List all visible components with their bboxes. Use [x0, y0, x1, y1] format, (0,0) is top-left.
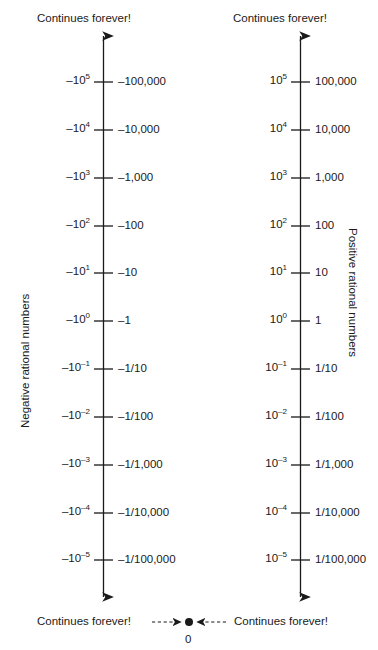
negative-power-exponent: –2: [81, 407, 90, 416]
negative-power-exponent: 4: [86, 120, 90, 129]
negative-power-exponent: 0: [86, 311, 90, 320]
negative-value-label: –10,000: [118, 124, 160, 136]
positive-power-label: 105: [222, 75, 287, 87]
negative-value-label: –10: [118, 267, 137, 279]
negative-power-label: –104: [20, 123, 90, 135]
negative-power-exponent: 3: [86, 168, 90, 177]
negative-power-label: –103: [20, 171, 90, 183]
positive-value-label: 10,000: [315, 124, 350, 136]
negative-power-label: –10–1: [20, 362, 90, 374]
positive-power-exponent: –4: [278, 503, 287, 512]
negative-power-label: –10–4: [20, 506, 90, 518]
positive-value-label: 1/100: [315, 411, 344, 423]
positive-power-exponent: 1: [283, 263, 287, 272]
negative-value-label: –1/10: [118, 363, 147, 375]
positive-power-exponent: 0: [283, 311, 287, 320]
top-label-positive: Continues forever!: [233, 13, 327, 25]
positive-power-exponent: –5: [278, 550, 287, 559]
negative-power-exponent: –5: [81, 550, 90, 559]
negative-power-exponent: –3: [81, 455, 90, 464]
negative-power-exponent: 1: [86, 263, 90, 272]
negative-power-label: –105: [20, 75, 90, 87]
positive-power-label: 103: [222, 171, 287, 183]
positive-power-label: 10–5: [222, 553, 287, 565]
positive-value-label: 100: [315, 220, 334, 232]
negative-value-label: –1: [118, 315, 131, 327]
negative-power-label: –10–5: [20, 553, 90, 565]
negative-value-label: –1/100: [118, 411, 153, 423]
positive-power-exponent: 5: [283, 72, 287, 81]
positive-power-label: 10–4: [222, 506, 287, 518]
positive-power-exponent: 4: [283, 120, 287, 129]
negative-power-label: –100: [20, 314, 90, 326]
negative-power-exponent: 5: [86, 72, 90, 81]
positive-power-label: 10–1: [222, 362, 287, 374]
positive-power-label: 100: [222, 314, 287, 326]
zero-point-dot: [185, 618, 193, 626]
positive-power-exponent: –3: [278, 455, 287, 464]
negative-value-label: –1,000: [118, 172, 153, 184]
positive-value-label: 1/100,000: [315, 554, 366, 566]
positive-power-exponent: 2: [283, 216, 287, 225]
positive-power-label: 101: [222, 266, 287, 278]
bottom-label-positive: Continues forever!: [234, 616, 328, 628]
positive-power-exponent: 3: [283, 168, 287, 177]
positive-value-label: 100,000: [315, 76, 357, 88]
number-line-diagram: Continues forever! Continues forever! Co…: [0, 0, 378, 650]
positive-power-label: 102: [222, 219, 287, 231]
axis-title-positive: Positive rational numbers: [347, 228, 359, 357]
negative-power-exponent: 2: [86, 216, 90, 225]
zero-label: 0: [185, 633, 191, 645]
positive-power-exponent: –1: [278, 359, 287, 368]
zero-convergence-group: [152, 618, 226, 626]
negative-power-label: –102: [20, 219, 90, 231]
top-label-negative: Continues forever!: [37, 13, 131, 25]
negative-value-label: –1/100,000: [118, 554, 176, 566]
negative-power-label: –10–3: [20, 458, 90, 470]
positive-value-label: 1,000: [315, 172, 344, 184]
positive-power-exponent: –2: [278, 407, 287, 416]
negative-power-label: –101: [20, 266, 90, 278]
positive-power-label: 10–2: [222, 410, 287, 422]
negative-value-label: –100: [118, 220, 144, 232]
negative-power-exponent: –4: [81, 503, 90, 512]
negative-axis-group: [94, 36, 113, 597]
negative-power-label: –10–2: [20, 410, 90, 422]
positive-power-label: 10–3: [222, 458, 287, 470]
negative-power-exponent: –1: [81, 359, 90, 368]
negative-value-label: –1/1,000: [118, 459, 163, 471]
positive-power-label: 104: [222, 123, 287, 135]
bottom-label-negative: Continues forever!: [37, 616, 131, 628]
positive-axis-group: [291, 36, 310, 597]
positive-value-label: 1: [315, 315, 321, 327]
positive-value-label: 10: [315, 267, 328, 279]
positive-value-label: 1/1,000: [315, 459, 353, 471]
positive-value-label: 1/10: [315, 363, 337, 375]
positive-value-label: 1/10,000: [315, 507, 360, 519]
negative-value-label: –1/10,000: [118, 507, 169, 519]
negative-value-label: –100,000: [118, 76, 166, 88]
